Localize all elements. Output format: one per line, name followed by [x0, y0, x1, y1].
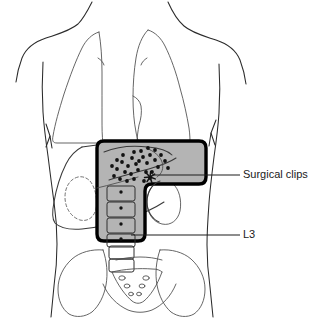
surgical-clip: [120, 160, 124, 164]
lung-fields: [53, 30, 190, 143]
surgical-clip: [130, 156, 134, 160]
surgical-clip: [112, 174, 116, 178]
anatomy-diagram-canvas: Surgical clipsL3: [0, 0, 316, 320]
surgical-clip: [134, 162, 138, 166]
surgical-clip: [166, 166, 170, 170]
surgical-clip: [153, 158, 157, 162]
surgical-clip: [115, 167, 119, 171]
surgical-clip: [132, 177, 136, 181]
vertebra-marker: [119, 206, 122, 209]
surgical-clip: [129, 172, 133, 176]
surgical-clip: [125, 179, 129, 183]
kidney-left-outline: [65, 177, 97, 221]
iliac-wing-left: [58, 250, 107, 317]
surgical-clip: [136, 168, 140, 172]
surgical-clip: [126, 164, 130, 168]
surgical-clip: [110, 164, 114, 168]
lung-right-outline: [133, 30, 148, 143]
surgical-clip: [139, 149, 143, 153]
surgical-clip: [145, 161, 149, 165]
surgical-clip: [156, 165, 160, 169]
surgical-clip: [146, 146, 150, 150]
callout-label-l3: L3: [243, 228, 255, 240]
lung-left-outline: [53, 32, 104, 143]
surgical-clip: [148, 153, 152, 157]
callout-label-surgical-clips: Surgical clips: [243, 168, 308, 180]
surgical-clip: [118, 177, 122, 181]
surgical-clip: [137, 159, 141, 163]
surgical-clip: [115, 158, 119, 162]
iliac-wing-right: [156, 250, 205, 317]
surgical-clip: [123, 170, 127, 174]
pelvis: [58, 250, 205, 317]
surgical-clip: [132, 150, 136, 154]
surgical-clip: [153, 148, 157, 152]
vertebra-marker: [119, 190, 122, 193]
vertebra-marker: [119, 237, 122, 240]
surgical-clip: [121, 153, 125, 157]
radiation-field-figure: Surgical clipsL3 Surgical clips L3: [0, 0, 316, 320]
surgical-clip: [142, 179, 146, 183]
vertebra-marker: [119, 222, 122, 225]
surgical-clip: [159, 153, 163, 157]
vertebral-body-below-field: [109, 246, 134, 259]
surgical-clip: [141, 155, 145, 159]
surgical-clip: [163, 159, 167, 163]
